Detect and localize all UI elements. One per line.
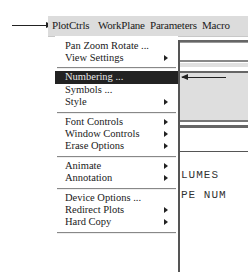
menu-item-label: Annotation xyxy=(65,172,112,183)
graphics-text-line: PE NUM xyxy=(181,189,227,201)
menu-item-label: Pan Zoom Rotate ... xyxy=(65,40,149,51)
menu-item-animate[interactable]: Animate xyxy=(55,160,176,172)
submenu-arrow-icon xyxy=(164,207,168,213)
menu-workplane-label: WorkPlane xyxy=(98,19,145,31)
menu-item-label: Animate xyxy=(65,160,101,171)
menu-separator xyxy=(57,188,176,190)
submenu-arrow-icon xyxy=(164,175,168,181)
submenu-arrow-icon xyxy=(164,119,168,125)
menu-separator xyxy=(57,156,176,158)
menu-item-label: Hard Copy xyxy=(65,216,111,227)
menu-item-hard-copy[interactable]: Hard Copy xyxy=(55,216,176,228)
toolbar-band xyxy=(180,120,248,122)
plotctrls-dropdown: Pan Zoom Rotate ... View Settings Number… xyxy=(55,36,178,250)
toolbar-area xyxy=(180,63,248,67)
menu-item-pan-zoom-rotate[interactable]: Pan Zoom Rotate ... xyxy=(55,40,176,52)
graphics-text-line: LUMES xyxy=(181,169,219,181)
submenu-arrow-icon xyxy=(164,219,168,225)
menu-parameters-label: Parameters xyxy=(150,19,197,31)
menu-item-symbols[interactable]: Symbols ... xyxy=(55,84,176,96)
menu-item-label: Window Controls xyxy=(65,128,140,139)
menu-item-label: Erase Options xyxy=(65,140,124,151)
menu-item-annotation[interactable]: Annotation xyxy=(55,172,176,184)
menu-separator xyxy=(57,112,176,114)
menu-macro[interactable]: Macro xyxy=(202,19,230,31)
menu-item-label: Numbering ... xyxy=(65,71,123,82)
toolbar-band xyxy=(180,60,248,62)
menu-item-font-controls[interactable]: Font Controls xyxy=(55,116,176,128)
toolbar-band xyxy=(180,42,248,43)
toolbar-area xyxy=(180,73,248,120)
menu-item-label: Font Controls xyxy=(65,116,123,127)
menu-item-label: Redirect Plots xyxy=(65,204,124,215)
submenu-arrow-icon xyxy=(164,55,168,61)
annotation-arrow-menu xyxy=(12,25,52,26)
annotation-arrow-numbering xyxy=(182,77,226,78)
submenu-arrow-icon xyxy=(164,131,168,137)
menu-item-label: View Settings xyxy=(65,52,124,63)
menu-item-label: Device Options ... xyxy=(65,192,141,203)
menu-bar: PlotCtrls WorkPlane Parameters Macro xyxy=(48,16,248,37)
toolbar-band xyxy=(180,125,248,128)
menu-plotctrls-label: PlotCtrls xyxy=(52,19,89,31)
menu-separator xyxy=(57,67,176,69)
menu-item-erase-options[interactable]: Erase Options xyxy=(55,140,176,152)
submenu-arrow-icon xyxy=(164,163,168,169)
menu-item-window-controls[interactable]: Window Controls xyxy=(55,128,176,140)
menu-separator xyxy=(57,232,176,234)
menu-item-numbering[interactable]: Numbering ... xyxy=(55,71,178,84)
toolbar-band xyxy=(180,151,248,152)
window-left-border xyxy=(178,40,180,272)
menu-item-redirect-plots[interactable]: Redirect Plots xyxy=(55,204,176,216)
menu-macro-label: Macro xyxy=(202,19,230,31)
menu-item-device-options[interactable]: Device Options ... xyxy=(55,192,176,204)
menu-workplane[interactable]: WorkPlane xyxy=(98,19,145,31)
menu-item-style[interactable]: Style xyxy=(55,96,176,108)
menu-item-view-settings[interactable]: View Settings xyxy=(55,52,176,64)
menu-parameters[interactable]: Parameters xyxy=(150,19,197,31)
menu-item-label: Symbols ... xyxy=(65,84,112,95)
menu-item-label: Style xyxy=(65,96,87,107)
menu-plotctrls[interactable]: PlotCtrls xyxy=(52,19,89,31)
main-graphics-window: LUMES PE NUM xyxy=(178,40,248,272)
submenu-arrow-icon xyxy=(164,99,168,105)
submenu-arrow-icon xyxy=(164,143,168,149)
